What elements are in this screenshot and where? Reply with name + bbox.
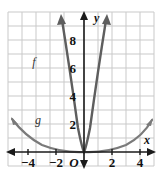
x-tick-label-pos2: 2 [109,155,116,170]
y-axis-name: y [92,11,100,25]
coordinate-plane-svg: −4 −2 2 4 2 4 6 8 O y x f g [0,0,162,174]
curve-label-g: g [35,113,41,127]
f-left-arrowhead [57,14,66,25]
x-tick-label-neg4: −4 [21,155,35,170]
x-tick-label-neg2: −2 [49,155,63,170]
x-axis-name: x [143,133,150,147]
x-tick-label-pos4: 4 [137,155,144,170]
y-tick-label-8: 8 [70,33,77,48]
g-right-arrowhead [146,118,153,126]
f-right-arrowhead [102,14,111,25]
origin-label: O [69,155,79,170]
graph-figure: −4 −2 2 4 2 4 6 8 O y x f g [0,0,162,174]
y-tick-label-2: 2 [70,117,77,132]
y-tick-label-6: 6 [70,61,77,76]
curve-label-f: f [32,55,37,69]
y-tick-label-4: 4 [70,89,77,104]
